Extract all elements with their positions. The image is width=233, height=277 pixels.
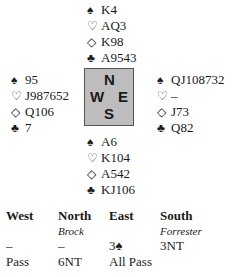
east-clubs-cards: Q82: [171, 120, 193, 136]
east-clubs: ♣ Q82: [157, 120, 224, 136]
club-icon: ♣: [87, 50, 101, 66]
player-south: Forrester: [160, 224, 211, 238]
diamond-icon: ◇: [87, 34, 101, 50]
bid-west-1: –: [6, 238, 58, 254]
auction-round-1: – – 3♠ 3NT: [6, 238, 231, 254]
player-east: [109, 224, 160, 238]
compass-south-label: S: [104, 106, 114, 122]
west-spades: ♠ 95: [11, 72, 69, 88]
bid-east-2: All Pass: [109, 254, 160, 270]
east-diamonds-cards: J73: [171, 104, 189, 120]
heart-icon: ♡: [87, 18, 101, 34]
north-spades-cards: K4: [101, 2, 117, 18]
auction-round-2: Pass 6NT All Pass: [6, 254, 231, 270]
east-hearts: ♡ –: [157, 88, 224, 104]
north-hand: ♠ K4 ♡ AQ3 ◇ K98 ♣ A9543: [87, 2, 136, 66]
compass-east-label: E: [118, 89, 128, 105]
compass-north-label: N: [104, 72, 115, 88]
spade-icon: ♠: [87, 134, 101, 150]
south-hand: ♠ A6 ♡ K104 ◇ A542 ♣ KJ106: [87, 134, 135, 198]
west-clubs: ♣ 7: [11, 120, 69, 136]
north-clubs-cards: A9543: [101, 50, 136, 66]
west-diamonds: ◇ Q106: [11, 104, 69, 120]
auction-player-names-row: Brock Forrester: [6, 224, 231, 238]
south-diamonds-cards: A542: [101, 166, 130, 182]
diamond-icon: ◇: [157, 104, 171, 120]
spade-icon: ♠: [87, 2, 101, 18]
club-icon: ♣: [157, 120, 171, 136]
east-hand: ♠ QJ108732 ♡ – ◇ J73 ♣ Q82: [157, 72, 224, 136]
player-north: Brock: [58, 224, 109, 238]
south-clubs: ♣ KJ106: [87, 182, 135, 198]
auction-header-row: West North East South: [6, 208, 231, 224]
south-clubs-cards: KJ106: [101, 182, 135, 198]
bid-north-2: 6NT: [58, 254, 109, 270]
south-spades-cards: A6: [101, 134, 117, 150]
south-diamonds: ◇ A542: [87, 166, 135, 182]
north-diamonds: ◇ K98: [87, 34, 136, 50]
bid-east-1: 3♠: [109, 238, 160, 254]
compass-west-label: W: [90, 89, 104, 105]
south-hearts-cards: K104: [101, 150, 130, 166]
west-hearts-cards: J987652: [25, 88, 69, 104]
auction-table: West North East South Brock Forrester – …: [6, 208, 231, 270]
heart-icon: ♡: [157, 88, 171, 104]
east-spades-cards: QJ108732: [171, 72, 224, 88]
east-spades: ♠ QJ108732: [157, 72, 224, 88]
bid-south-2: [160, 254, 211, 270]
spade-icon: ♠: [11, 72, 25, 88]
north-spades: ♠ K4: [87, 2, 136, 18]
player-west: [6, 224, 58, 238]
north-hearts-cards: AQ3: [101, 18, 126, 34]
west-spades-cards: 95: [25, 72, 38, 88]
header-east: East: [109, 208, 160, 224]
west-clubs-cards: 7: [25, 120, 32, 136]
diamond-icon: ◇: [87, 166, 101, 182]
north-hearts: ♡ AQ3: [87, 18, 136, 34]
east-diamonds: ◇ J73: [157, 104, 224, 120]
bid-west-2: Pass: [6, 254, 58, 270]
compass-box: N W E S: [84, 68, 134, 126]
west-hearts: ♡ J987652: [11, 88, 69, 104]
south-hearts: ♡ K104: [87, 150, 135, 166]
club-icon: ♣: [87, 182, 101, 198]
spade-icon: ♠: [157, 72, 171, 88]
bid-north-1: –: [58, 238, 109, 254]
west-diamonds-cards: Q106: [25, 104, 54, 120]
header-south: South: [160, 208, 211, 224]
north-clubs: ♣ A9543: [87, 50, 136, 66]
header-west: West: [6, 208, 58, 224]
club-icon: ♣: [11, 120, 25, 136]
south-spades: ♠ A6: [87, 134, 135, 150]
east-hearts-cards: –: [171, 88, 178, 104]
north-diamonds-cards: K98: [101, 34, 123, 50]
heart-icon: ♡: [87, 150, 101, 166]
heart-icon: ♡: [11, 88, 25, 104]
diamond-icon: ◇: [11, 104, 25, 120]
header-north: North: [58, 208, 109, 224]
west-hand: ♠ 95 ♡ J987652 ◇ Q106 ♣ 7: [11, 72, 69, 136]
bid-south-1: 3NT: [160, 238, 211, 254]
